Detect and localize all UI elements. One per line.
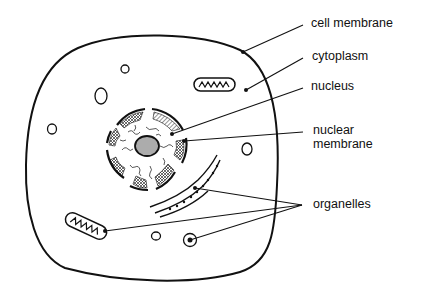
vacuole: [95, 88, 107, 104]
mitochondrion-upper: [194, 78, 235, 91]
label-organelles: organelles: [313, 198, 371, 211]
cell-membrane-outline: [26, 35, 278, 280]
label-nucleus: nucleus: [311, 80, 354, 93]
vesicle: [48, 124, 57, 134]
nucleolus: [135, 136, 159, 156]
vesicle: [152, 232, 161, 240]
label-cell-membrane: cell membrane: [311, 17, 393, 30]
leader-lines: [105, 25, 303, 240]
label-cytoplasm: cytoplasm: [312, 50, 368, 63]
cell-diagram: [0, 0, 423, 303]
nucleus: [107, 109, 187, 190]
vesicle: [121, 65, 129, 73]
mitochondrion-lower: [63, 210, 109, 241]
label-nuclear-membrane-line1: nuclear: [313, 124, 354, 137]
vesicle: [242, 143, 252, 155]
label-nuclear-membrane-line2: membrane: [313, 138, 373, 151]
